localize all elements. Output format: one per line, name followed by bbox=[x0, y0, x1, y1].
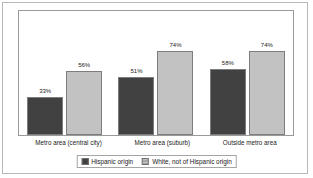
bar-value-label: 51% bbox=[130, 67, 142, 75]
bar-group: 58% 74% bbox=[210, 11, 285, 135]
bar-group: 51% 74% bbox=[118, 11, 193, 135]
legend-item-hispanic: Hispanic origin bbox=[81, 157, 133, 166]
bar-wrapper: 56% bbox=[66, 11, 102, 135]
bar-wrapper: 58% bbox=[210, 11, 246, 135]
bar-chart-figure: 33% 56% 51% 74% bbox=[0, 0, 313, 178]
bar-wrapper: 33% bbox=[27, 11, 63, 135]
bar-white-suburb bbox=[157, 51, 193, 135]
legend-label: White, not of Hispanic origin bbox=[152, 157, 232, 166]
category-axis-labels: Metro area (central city) Metro area (su… bbox=[19, 139, 293, 147]
category-label-suburb: Metro area (suburb) bbox=[134, 139, 190, 147]
bar-value-label: 33% bbox=[39, 87, 51, 95]
bar-white-central-city bbox=[66, 71, 102, 135]
legend-item-white-non-hispanic: White, not of Hispanic origin bbox=[142, 157, 232, 166]
bar-value-label: 56% bbox=[78, 61, 90, 69]
bar-groups: 33% 56% 51% 74% bbox=[19, 11, 293, 135]
light-swatch-icon bbox=[142, 158, 149, 165]
bar-value-label: 58% bbox=[222, 59, 234, 67]
chart-legend: Hispanic origin White, not of Hispanic o… bbox=[76, 155, 237, 168]
bar-hispanic-central-city bbox=[27, 97, 63, 135]
bar-value-label: 74% bbox=[261, 41, 273, 49]
bar-group: 33% 56% bbox=[27, 11, 102, 135]
plot-area: 33% 56% 51% 74% bbox=[19, 11, 293, 135]
category-label-outside-metro: Outside metro area bbox=[223, 139, 277, 147]
bar-wrapper: 51% bbox=[118, 11, 154, 135]
bar-hispanic-outside-metro bbox=[210, 69, 246, 135]
bar-wrapper: 74% bbox=[157, 11, 193, 135]
legend-label: Hispanic origin bbox=[91, 157, 133, 166]
dark-swatch-icon bbox=[81, 158, 88, 165]
bar-hispanic-suburb bbox=[118, 77, 154, 135]
bar-wrapper: 74% bbox=[249, 11, 285, 135]
category-label-central-city: Metro area (central city) bbox=[35, 139, 102, 147]
bar-value-label: 74% bbox=[169, 41, 181, 49]
bar-white-outside-metro bbox=[249, 51, 285, 135]
